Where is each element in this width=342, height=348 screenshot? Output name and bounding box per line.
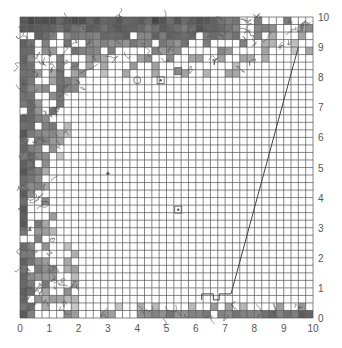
- x-tick-label: 4: [134, 323, 140, 334]
- y-tick-label: 9: [318, 42, 324, 53]
- x-axis-ticks: 012345678910: [17, 323, 319, 334]
- y-tick-label: 0: [318, 313, 324, 324]
- x-tick-label: 5: [164, 323, 170, 334]
- y-tick-label: 2: [318, 253, 324, 264]
- y-axis-ticks: 012345678910: [318, 12, 330, 324]
- y-tick-label: 10: [318, 12, 330, 23]
- x-tick-label: 8: [252, 323, 258, 334]
- x-tick-label: 2: [76, 323, 82, 334]
- y-tick-label: 7: [318, 102, 324, 113]
- y-tick-label: 5: [318, 163, 324, 174]
- y-tick-label: 8: [318, 72, 324, 83]
- y-tick-label: 4: [318, 193, 324, 204]
- x-tick-label: 3: [105, 323, 111, 334]
- grid-lines: [20, 17, 313, 318]
- y-tick-label: 3: [318, 223, 324, 234]
- contour-grid-chart: 012345678910 012345678910: [0, 0, 342, 348]
- x-tick-label: 9: [281, 323, 287, 334]
- x-tick-label: 0: [17, 323, 23, 334]
- x-tick-label: 1: [47, 323, 53, 334]
- y-tick-label: 6: [318, 132, 324, 143]
- y-tick-label: 1: [318, 283, 324, 294]
- data-markers: [106, 68, 181, 213]
- x-tick-label: 10: [307, 323, 319, 334]
- x-tick-label: 7: [222, 323, 228, 334]
- x-tick-label: 6: [193, 323, 199, 334]
